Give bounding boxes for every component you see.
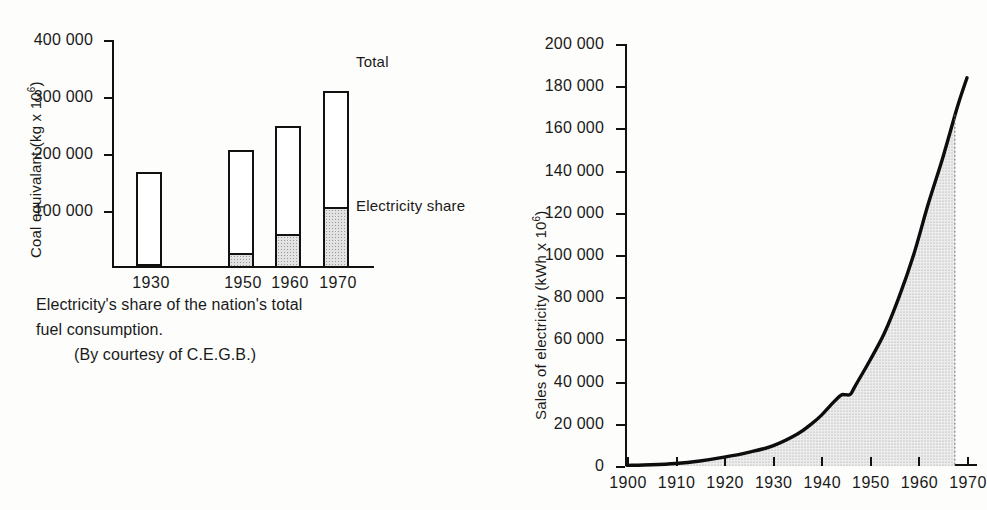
bar-1960[interactable]: 1960 — [275, 126, 301, 269]
left-y-tick-label-300000: 300 000 — [34, 88, 93, 106]
right-y-tick-label-100000: 100 000 — [545, 246, 604, 264]
right-x-tick-1900: 1900 — [627, 457, 629, 466]
left-chart-caption: Electricity's share of the nation's tota… — [36, 292, 302, 367]
right-y-tick-label-80000: 80 000 — [554, 288, 604, 306]
annotation-total-label: Total — [356, 53, 389, 70]
right-x-tick-label-1900: 1900 — [609, 474, 647, 492]
right-y-tick-label-120000: 120 000 — [545, 204, 604, 222]
left-y-tick-300000: 300 000 — [104, 97, 112, 99]
right-y-tick-40000: 40 000 — [616, 382, 625, 384]
left-y-axis-title-text: Coal equivalant (kg x 10 — [27, 92, 44, 258]
caption-line-2: fuel consumption. — [36, 321, 163, 338]
right-x-tick-label-1970: 1970 — [949, 474, 987, 492]
right-y-axis-exponent: 6 — [531, 216, 542, 222]
caption-line-1: Electricity's share of the nation's tota… — [36, 296, 302, 313]
right-chart-y-axis-title: Sales of electricity (kWh x 106) — [531, 210, 549, 420]
right-y-tick-200000: 200 000 — [616, 44, 625, 46]
right-y-tick-100000: 100 000 — [616, 255, 625, 257]
x-category-label-1960: 1960 — [271, 274, 309, 292]
x-category-label-1970: 1970 — [319, 274, 357, 292]
left-y-tick-200000: 200 000 — [104, 154, 112, 156]
left-y-tick-400000: 400 000 — [104, 40, 112, 42]
right-x-tick-label-1960: 1960 — [901, 474, 939, 492]
caption-line-3: (By courtesy of C.E.G.B.) — [36, 342, 302, 367]
right-y-tick-180000: 180 000 — [616, 86, 625, 88]
right-x-tick-1940: 1940 — [821, 457, 823, 466]
right-x-tick-label-1950: 1950 — [852, 474, 890, 492]
left-chart-y-axis-title: Coal equivalant (kg x 106) — [26, 81, 44, 258]
bar-1970[interactable]: 1970 — [323, 91, 349, 268]
bar-1950-electricity-share — [228, 253, 254, 268]
right-x-tick-1910: 1910 — [676, 457, 678, 466]
bar-1950[interactable]: 1950 — [228, 150, 254, 268]
right-x-tick-label-1940: 1940 — [803, 474, 841, 492]
right-x-tick-label-1930: 1930 — [755, 474, 793, 492]
right-chart-plot-area: 020 00040 00060 00080 000100 000120 0001… — [625, 44, 965, 466]
right-x-tick-1960: 1960 — [918, 457, 920, 466]
bar-1960-electricity-share — [275, 234, 301, 268]
right-x-tick-1950: 1950 — [870, 457, 872, 466]
bar-1930-electricity-share — [136, 264, 162, 268]
right-y-tick-label-160000: 160 000 — [545, 119, 604, 137]
bar-chart-coal-equivalent: Coal equivalant (kg x 106) 400 000 300 0… — [0, 0, 470, 380]
right-y-tick-label-40000: 40 000 — [554, 373, 604, 391]
right-y-tick-label-140000: 140 000 — [545, 162, 604, 180]
right-x-tick-1930: 1930 — [773, 457, 775, 466]
sales-curve-area-fill — [627, 115, 955, 466]
right-y-tick-label-180000: 180 000 — [545, 77, 604, 95]
right-y-tick-80000: 80 000 — [616, 297, 625, 299]
right-y-tick-120000: 120 000 — [616, 213, 625, 215]
right-y-tick-label-60000: 60 000 — [554, 330, 604, 348]
right-x-tick-label-1910: 1910 — [658, 474, 696, 492]
right-y-tick-label-200000: 200 000 — [545, 35, 604, 53]
sales-curve-svg — [627, 44, 967, 466]
left-chart-plot-area: 400 000 300 000 200 000 100 000 1930 195… — [112, 40, 372, 268]
left-y-tick-label-200000: 200 000 — [34, 145, 93, 163]
right-y-tick-60000: 60 000 — [616, 339, 625, 341]
annotation-electricity-share-label: Electricity share — [356, 197, 465, 214]
right-y-tick-160000: 160 000 — [616, 128, 625, 130]
x-category-label-1930: 1930 — [132, 274, 170, 292]
x-category-label-1950: 1950 — [224, 274, 262, 292]
bar-1970-electricity-share — [323, 207, 349, 268]
right-x-tick-label-1920: 1920 — [706, 474, 744, 492]
right-y-tick-0: 0 — [616, 466, 625, 468]
left-y-axis-line — [112, 40, 114, 268]
right-y-tick-label-20000: 20 000 — [554, 415, 604, 433]
left-y-axis-title-tail: ) — [27, 81, 44, 86]
right-y-tick-20000: 20 000 — [616, 424, 625, 426]
right-x-tick-1970: 1970 — [967, 457, 969, 466]
right-y-tick-label-0: 0 — [595, 457, 604, 475]
right-x-tick-1920: 1920 — [724, 457, 726, 466]
bar-1930[interactable]: 1930 — [136, 172, 162, 268]
left-y-tick-label-400000: 400 000 — [34, 31, 93, 49]
left-y-tick-label-100000: 100 000 — [34, 202, 93, 220]
right-y-tick-140000: 140 000 — [616, 171, 625, 173]
left-y-tick-100000: 100 000 — [104, 211, 112, 213]
